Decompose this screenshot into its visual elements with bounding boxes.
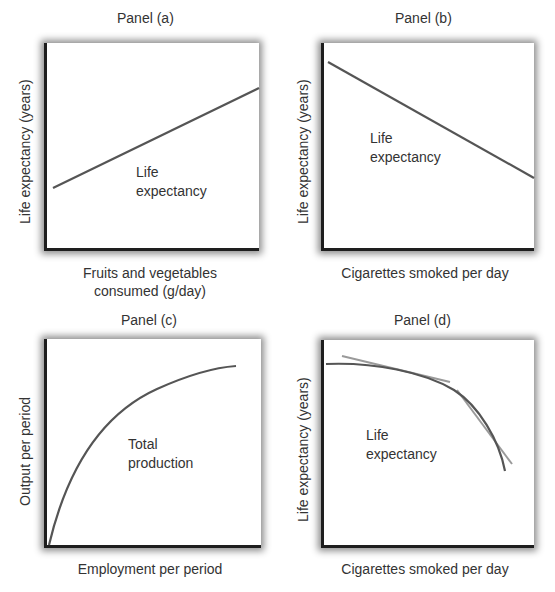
panel-c-curve-label: Total production <box>128 435 193 473</box>
tangent-line-2 <box>457 390 512 464</box>
panel-c-x-label: Employment per period <box>30 560 270 578</box>
panel-c-title: Panel (c) <box>121 312 177 328</box>
panel-b-x-label: Cigarettes smoked per day <box>305 264 545 282</box>
panel-d-curve-label: Life expectancy <box>366 426 437 464</box>
panel-b-plot: Life expectancy <box>321 43 534 251</box>
panel-b-y-label: Life expectancy (years) <box>295 79 311 224</box>
panel-d-y-label: Life expectancy (years) <box>295 377 311 522</box>
panel-a-y-label: Life expectancy (years) <box>17 79 33 224</box>
panel-a-plot: Life expectancy <box>44 43 259 251</box>
panel-a-curve-label: Life expectancy <box>136 163 207 201</box>
panel-d-x-label: Cigarettes smoked per day <box>305 560 545 578</box>
panel-c-plot: Total production <box>44 339 261 548</box>
panel-a-curve <box>47 43 259 248</box>
panel-a-x-label: Fruits and vegetables consumed (g/day) <box>44 264 256 300</box>
panel-b-curve-label: Life expectancy <box>370 129 441 167</box>
panel-a-title: Panel (a) <box>117 10 174 26</box>
panel-b-title: Panel (b) <box>395 10 452 26</box>
panel-d-title: Panel (d) <box>394 312 451 328</box>
panel-c-y-label: Output per period <box>17 397 33 506</box>
panel-d-plot: Life expectancy <box>321 340 534 548</box>
